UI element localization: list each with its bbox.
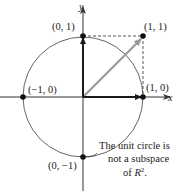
label-1-1: (1, 1) (144, 21, 167, 33)
y-axis-label: y (78, 1, 84, 12)
caption-line-2: not a subspace (108, 153, 170, 164)
caption-line-3: of R2. (123, 166, 147, 178)
label-0-neg1: (0, −1) (48, 160, 77, 172)
vector-sum-arrow (83, 39, 141, 97)
caption-line-3-suffix: . (144, 167, 147, 178)
label-0-1: (0, 1) (52, 21, 75, 33)
point-0-1 (80, 33, 86, 39)
point-1-1 (140, 33, 146, 39)
point-1-0 (140, 94, 146, 100)
caption-line-3-prefix: of (123, 167, 134, 178)
diagram-canvas: y x (0, 1) (1, 1) (−1, 0) (1, 0) (0, −1)… (0, 0, 195, 191)
point-0-neg1 (80, 154, 86, 160)
unit-circle-diagram: y x (0, 1) (1, 1) (−1, 0) (1, 0) (0, −1)… (0, 0, 195, 191)
x-axis-label: x (167, 92, 173, 103)
label-neg1-0: (−1, 0) (28, 84, 57, 96)
point-neg1-0 (20, 94, 26, 100)
label-1-0: (1, 0) (146, 82, 169, 94)
caption-line-1: The unit circle is (99, 140, 170, 151)
